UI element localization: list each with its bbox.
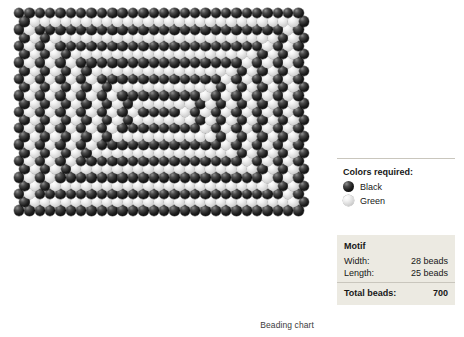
bead-swatch-black-icon xyxy=(343,181,354,192)
motif-length-value: 25 beads xyxy=(411,268,448,278)
colors-required-title: Colors required: xyxy=(343,167,455,177)
motif-width-value: 28 beads xyxy=(411,256,448,266)
motif-width-label: Width: xyxy=(344,256,370,266)
bead xyxy=(169,8,179,18)
motif-title: Motif xyxy=(344,241,455,251)
motif-row-length: Length: 25 beads xyxy=(337,268,455,278)
legend-label-black: Black xyxy=(360,182,382,192)
motif-total-value: 700 xyxy=(433,288,448,298)
beading-chart-panel: Beading chart xyxy=(14,8,314,330)
bead xyxy=(231,8,241,18)
beading-chart-caption: Beading chart xyxy=(260,320,314,330)
legend-item-black: Black xyxy=(343,181,455,192)
bead xyxy=(200,8,210,18)
bead-swatch-green-icon xyxy=(343,195,354,206)
bead xyxy=(138,8,148,18)
motif-total-label: Total beads: xyxy=(344,288,396,298)
page-root: Beading chart Colors required: Black Gre… xyxy=(0,0,464,337)
motif-row-width: Width: 28 beads xyxy=(337,256,455,266)
side-panels: Colors required: Black Green Motif Width… xyxy=(337,0,455,337)
bead xyxy=(107,8,117,18)
bead xyxy=(24,8,34,18)
motif-length-label: Length: xyxy=(344,268,374,278)
motif-panel: Motif Width: 28 beads Length: 25 beads T… xyxy=(337,235,455,305)
colors-required-panel: Colors required: Black Green xyxy=(337,158,455,209)
bead-grid-wrapper xyxy=(14,8,309,216)
motif-total-row: Total beads: 700 xyxy=(337,282,455,298)
legend-label-green: Green xyxy=(360,196,385,206)
bead xyxy=(262,8,272,18)
legend-item-green: Green xyxy=(343,195,455,206)
bead-grid xyxy=(14,8,309,216)
